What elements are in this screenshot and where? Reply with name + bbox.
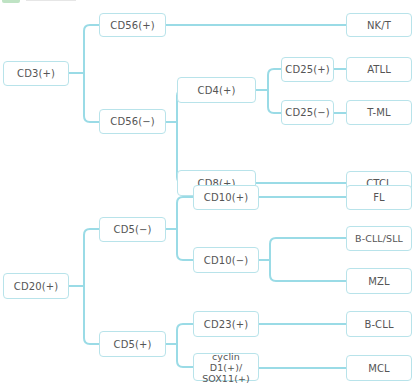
node-label: MCL xyxy=(368,363,389,374)
node-label: CD10(−) xyxy=(204,255,248,266)
node-label: ATLL xyxy=(367,64,391,75)
node-cd10-positive: CD10(+) xyxy=(193,185,259,210)
node-label: CD56(+) xyxy=(110,20,154,31)
node-label: NK/T xyxy=(367,20,391,31)
node-label: CD4(+) xyxy=(198,85,236,96)
node-cd5-negative: CD5(−) xyxy=(99,217,166,242)
node-label: CD20(+) xyxy=(14,281,58,292)
node-label: MZL xyxy=(368,276,389,287)
node-label: B-CLL xyxy=(364,319,393,330)
node-mcl: MCL xyxy=(346,355,412,381)
node-label: CD5(+) xyxy=(114,339,152,350)
node-label: CD10(+) xyxy=(204,192,248,203)
node-label: CD56(−) xyxy=(110,116,154,127)
node-cyclin-d1-sox11: cyclin D1(+)/ SOX11(+) xyxy=(193,353,259,381)
node-label: FL xyxy=(373,192,385,203)
node-bcll-sll: B-CLL/SLL xyxy=(346,226,412,251)
node-cd25-positive: CD25(+) xyxy=(281,57,334,82)
node-label: CD23(+) xyxy=(204,319,248,330)
node-cd56-positive: CD56(+) xyxy=(99,13,166,37)
node-label: CD25(−) xyxy=(285,107,329,118)
node-cd20-positive: CD20(+) xyxy=(3,273,69,299)
node-fl: FL xyxy=(346,185,412,210)
node-label: CD5(−) xyxy=(114,224,152,235)
node-cd4-positive: CD4(+) xyxy=(177,77,256,103)
node-label: B-CLL/SLL xyxy=(355,233,403,244)
node-cd23-positive: CD23(+) xyxy=(193,311,259,337)
node-nkt: NK/T xyxy=(346,13,412,37)
node-cd10-negative: CD10(−) xyxy=(193,247,259,273)
node-label: T-ML xyxy=(367,107,390,118)
node-cd56-negative: CD56(−) xyxy=(99,109,166,134)
node-atll: ATLL xyxy=(346,57,412,82)
node-label: cyclin D1(+)/ SOX11(+) xyxy=(196,351,256,384)
node-bcll: B-CLL xyxy=(346,311,412,337)
node-label: CD25(+) xyxy=(285,64,329,75)
node-mzl: MZL xyxy=(346,268,412,294)
node-tml: T-ML xyxy=(346,100,412,125)
node-cd25-negative: CD25(−) xyxy=(281,100,334,125)
node-cd3-positive: CD3(+) xyxy=(3,61,69,86)
node-cd5-positive: CD5(+) xyxy=(99,331,166,357)
node-label: CD3(+) xyxy=(17,68,55,79)
